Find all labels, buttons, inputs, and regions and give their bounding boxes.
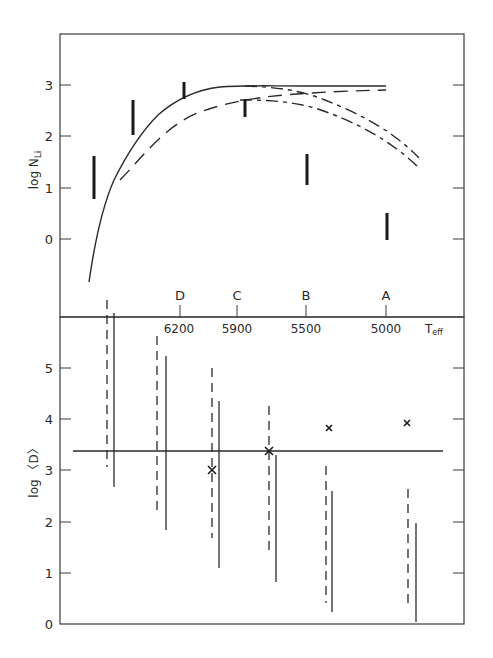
teff-axis: D C B A 6200 5900 5500 5000 Teff [164,288,444,337]
lower-ytick-4: 4 [45,412,53,427]
figure: 0 1 2 3 log NLi D C B A 6200 5900 5500 5… [0,0,493,658]
upper-ytick-0: 0 [45,232,53,247]
range-group-3 [208,368,219,568]
cross-marker [326,425,332,431]
xtick-5500: 5500 [291,322,322,336]
lower-ytick-3: 3 [45,463,53,478]
upper-y-label-sub: Li [33,151,43,159]
range-group-1 [107,300,114,487]
x-label-sub: eff [432,328,443,337]
upper-ytick-1: 1 [45,181,53,196]
star-label-d: D [175,288,185,303]
lower-plot-frame [60,317,464,624]
lower-ytick-1: 1 [45,566,53,581]
range-group-6 [404,420,416,622]
range-group-4 [265,406,276,582]
lower-ytick-0: 0 [45,617,53,632]
star-label-a: A [382,288,391,303]
svg-text:log NLi: log NLi [27,151,43,190]
x-axis-label: Teff [424,322,443,337]
diffusion-ranges [107,300,416,622]
xtick-6200: 6200 [164,322,195,336]
lower-y-label: log 〈D〉 [27,442,41,497]
upper-y-label: log NLi [27,151,43,190]
xtick-5000: 5000 [371,322,402,336]
lower-ytick-5: 5 [45,361,53,376]
lower-y-axis: 0 1 2 3 4 5 log 〈D〉 [27,361,464,632]
range-group-5 [326,425,332,612]
long-dash-model-curve [120,90,386,180]
range-group-2 [157,336,166,530]
upper-ytick-2: 2 [45,129,53,144]
upper-curves [89,86,419,282]
upper-ytick-3: 3 [45,78,53,93]
star-label-c: C [232,288,241,303]
xtick-5900: 5900 [222,322,253,336]
lower-ytick-2: 2 [45,515,53,530]
cross-marker [404,420,410,426]
cross-marker [208,466,216,474]
star-label-b: B [302,288,311,303]
upper-plot-frame [60,34,464,317]
upper-y-label-main: log N [27,158,41,189]
